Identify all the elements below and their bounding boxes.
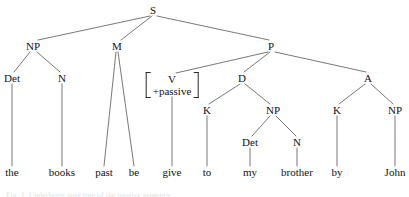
tree-edge: [38, 16, 150, 40]
tree-node-np3: NP: [388, 105, 402, 116]
tree-terminal-to: to: [203, 167, 212, 178]
tree-node-n1: N: [58, 73, 66, 84]
matrix-rows: V+passive: [151, 72, 194, 98]
tree-edge: [14, 52, 30, 72]
tree-edge: [276, 116, 296, 136]
tree-edge: [157, 16, 269, 40]
tree-terminal-past: past: [95, 167, 113, 178]
right-bracket-icon: [193, 72, 198, 98]
tree-terminal-my: my: [243, 167, 257, 178]
tree-edge: [176, 52, 268, 73]
tree-terminal-be: be: [129, 167, 139, 178]
feature-matrix-node-v: V+passive: [146, 72, 199, 98]
tree-node-k2: K: [333, 105, 341, 116]
tree-edge: [118, 52, 134, 166]
matrix-category-label: V: [168, 73, 176, 85]
tree-edge: [339, 84, 365, 104]
tree-node-n2: N: [293, 137, 301, 148]
tree-node-det2: Det: [242, 137, 258, 148]
tree-edge: [371, 84, 393, 104]
tree-edge: [209, 84, 240, 104]
tree-node-s: S: [150, 5, 156, 16]
tree-edge: [104, 52, 116, 166]
tree-terminal-give: give: [163, 167, 182, 178]
tree-node-p: P: [268, 41, 274, 52]
tree-terminal-by: by: [332, 167, 343, 178]
matrix-feature-label: +passive: [153, 85, 192, 97]
tree-terminal-brother: brother: [281, 167, 313, 178]
tree-edge: [275, 52, 366, 72]
tree-node-k1: K: [203, 105, 211, 116]
tree-edge: [244, 52, 270, 72]
tree-terminal-john: John: [385, 167, 406, 178]
tree-edge: [121, 16, 152, 40]
tree-terminal-books: books: [49, 167, 75, 178]
tree-node-det1: Det: [4, 73, 20, 84]
tree-terminal-the: the: [5, 167, 18, 178]
tree-edge: [252, 116, 270, 136]
tree-node-np2: NP: [266, 105, 280, 116]
syntax-tree-figure: SNPMPDetNDAKNPKNPDetN V+passive thebooks…: [0, 0, 409, 197]
tree-node-a: A: [364, 73, 372, 84]
tree-edge: [37, 52, 60, 72]
tree-node-m: M: [112, 41, 122, 52]
tree-edge: [245, 84, 270, 104]
figure-caption: Fig. 1. Underlying structure of the pass…: [6, 191, 171, 197]
tree-node-np1: NP: [26, 41, 40, 52]
tree-node-d: D: [238, 73, 246, 84]
